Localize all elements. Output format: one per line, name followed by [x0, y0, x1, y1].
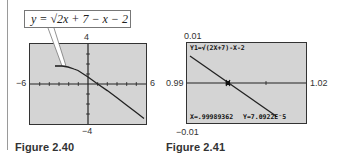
fig2-graph: [0, 0, 340, 162]
fig2-trace-x: X=.99989362: [190, 114, 233, 121]
fig2-caption: Figure 2.41: [166, 141, 225, 153]
fig2-screen-function: Y1=√(2X+7)-X-2: [190, 45, 245, 52]
fig2-trace-y: Y=7.0922E⁻5: [243, 114, 286, 121]
fig2-curve: [190, 56, 276, 116]
